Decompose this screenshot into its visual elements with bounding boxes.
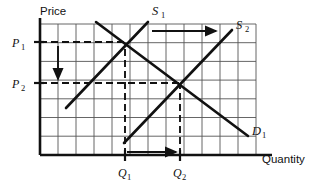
y-axis-title: Price bbox=[40, 5, 66, 17]
supply-curve-s1-label: S 1 bbox=[152, 4, 165, 20]
axes bbox=[40, 18, 272, 155]
p1-label-subscript: 1 bbox=[21, 42, 25, 52]
q2-tick-label: Q 2 bbox=[173, 166, 186, 182]
p1-tick-label: P 1 bbox=[11, 36, 25, 52]
q1-label-subscript: 1 bbox=[127, 172, 131, 182]
q1-label-base: Q bbox=[118, 166, 127, 180]
p2-tick-label: P 2 bbox=[11, 77, 25, 93]
supply-demand-figure: Price Quantity P 1 P 2 Q 1 Q 2 S 1 S 2 bbox=[0, 0, 316, 188]
diagram-canvas: Price Quantity P 1 P 2 Q 1 Q 2 S 1 S 2 bbox=[0, 0, 316, 188]
p1-label-base: P bbox=[11, 36, 20, 50]
quantity-guides bbox=[125, 45, 180, 161]
q1-tick-label: Q 1 bbox=[118, 166, 131, 182]
demand-curve-d1 bbox=[96, 22, 248, 136]
x-axis-title: Quantity bbox=[262, 153, 305, 165]
demand-curve-d1-label: D 1 bbox=[251, 124, 266, 140]
grid bbox=[40, 24, 256, 155]
supply-curve-s2-label: S 2 bbox=[236, 18, 249, 34]
s1-label-subscript: 1 bbox=[161, 10, 165, 20]
d1-label-subscript: 1 bbox=[262, 130, 266, 140]
p2-label-subscript: 2 bbox=[21, 83, 25, 93]
supply-curve-s1 bbox=[66, 22, 148, 108]
p2-label-base: P bbox=[11, 77, 20, 91]
supply-curve-s2 bbox=[124, 30, 232, 143]
d1-label-base: D bbox=[251, 124, 261, 138]
q2-label-subscript: 2 bbox=[182, 172, 186, 182]
s1-label-base: S bbox=[152, 4, 159, 18]
q2-label-base: Q bbox=[173, 166, 182, 180]
s2-label-subscript: 2 bbox=[245, 24, 249, 34]
s2-label-base: S bbox=[236, 18, 243, 32]
